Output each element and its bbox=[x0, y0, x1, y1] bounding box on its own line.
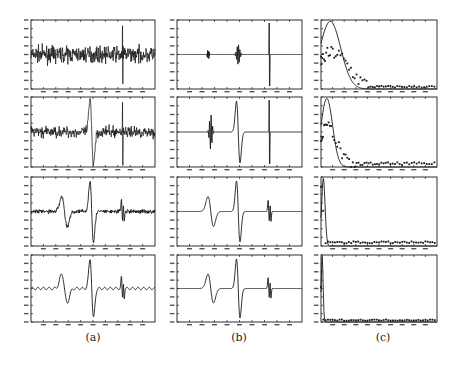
signal-trace bbox=[31, 98, 155, 165]
plot-frame bbox=[321, 177, 437, 246]
signal-trace bbox=[31, 181, 155, 243]
signal-trace bbox=[177, 181, 302, 242]
fit-curve bbox=[321, 256, 437, 322]
caption-b: (b) bbox=[231, 331, 247, 344]
plot-frame bbox=[321, 255, 437, 322]
caption-a: (a) bbox=[85, 331, 100, 344]
plot-panel-a3 bbox=[31, 177, 155, 246]
plot-panel-b3 bbox=[177, 177, 302, 246]
plot-panel-a2 bbox=[31, 97, 155, 167]
caption-c: (c) bbox=[376, 331, 391, 344]
plot-panel-b4 bbox=[177, 255, 302, 322]
plot-panel-c1 bbox=[321, 20, 437, 89]
fit-curve bbox=[321, 98, 437, 167]
plot-panel-b1 bbox=[177, 20, 302, 89]
signal-trace bbox=[31, 26, 155, 84]
signal-trace bbox=[177, 259, 302, 318]
plot-panel-c2 bbox=[321, 97, 437, 167]
fit-curve bbox=[321, 21, 437, 89]
signal-trace bbox=[177, 100, 302, 164]
plot-panel-b2 bbox=[177, 97, 302, 167]
plot-panel-a1 bbox=[31, 20, 155, 89]
signal-trace bbox=[31, 260, 155, 317]
plot-panel-c3 bbox=[321, 177, 437, 246]
figure: (a) (b) (c) bbox=[0, 0, 459, 365]
fit-curve bbox=[321, 178, 437, 246]
plot-panel-c4 bbox=[321, 255, 437, 322]
plot-panel-a4 bbox=[31, 255, 155, 322]
plot-frame bbox=[321, 20, 437, 89]
signal-trace bbox=[177, 23, 302, 86]
